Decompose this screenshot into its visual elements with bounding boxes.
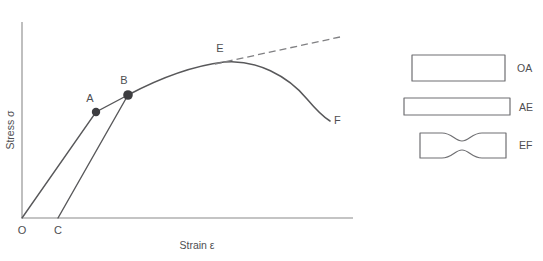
figure-container: Stress σ Strain ε O C A B E F OA AE (0, 0, 543, 261)
point-label-e: E (216, 42, 223, 54)
elastic-loading-line-oab (22, 95, 128, 218)
point-label-b: B (120, 74, 127, 86)
marker-dot-b (123, 90, 133, 100)
marker-dot-a (92, 108, 100, 116)
plastic-curve-bef (128, 62, 330, 121)
specimen-oa: OA (412, 55, 532, 81)
specimen-ef: EF (420, 133, 532, 158)
specimen-ae-shape (404, 98, 510, 115)
specimen-ef-label: EF (519, 139, 532, 151)
specimen-ef-shape (420, 133, 506, 158)
stress-strain-figure: Stress σ Strain ε O C A B E F OA AE (0, 0, 543, 261)
tangent-dashed-line-at-e (215, 37, 340, 64)
specimen-oa-label: OA (517, 62, 532, 74)
point-label-f: F (334, 114, 341, 126)
point-label-c: C (54, 224, 62, 236)
specimen-ae-label: AE (519, 101, 533, 113)
specimen-ae: AE (404, 98, 533, 115)
point-label-o: O (18, 224, 27, 236)
x-axis-label: Strain ε (179, 239, 214, 251)
y-axis-label: Stress σ (4, 110, 16, 150)
chart-axes (22, 22, 353, 218)
point-label-a: A (86, 92, 94, 104)
specimen-oa-shape (412, 55, 505, 81)
